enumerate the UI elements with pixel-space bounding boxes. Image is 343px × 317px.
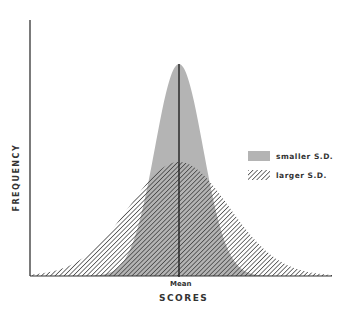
x-axis-label: SCORES — [159, 293, 208, 303]
mean-label: Mean — [170, 280, 191, 288]
gray-swatch-icon — [248, 151, 270, 161]
legend-item-larger-sd: larger S.D. — [248, 170, 327, 180]
hatch-swatch-icon — [248, 170, 270, 180]
y-axis-label: FREQUENCY — [12, 152, 21, 212]
legend-item-smaller-sd: smaller S.D. — [248, 151, 333, 161]
